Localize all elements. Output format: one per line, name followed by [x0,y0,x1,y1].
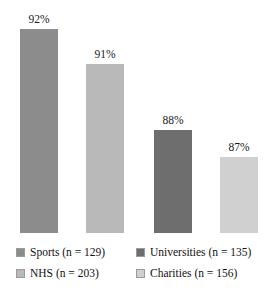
legend-swatch-icon-charities [136,269,145,278]
legend-label-charities: Charities (n = 156) [150,268,237,280]
legend-swatch-icon-sports [16,248,25,257]
bar-group-sports: 92% [20,29,58,233]
bar-value-label-sports: 92% [28,14,49,26]
legend-item-universities[interactable]: Universities (n = 135) [136,247,266,259]
bar-group-charities: 87% [220,157,258,233]
legend-label-nhs: NHS (n = 203) [30,268,99,280]
bar-value-label-charities: 87% [228,142,249,154]
bar-chart: 92% 91% 88% 87% Sports (n = 129) Univers… [0,0,276,293]
bar-sports[interactable] [20,29,58,233]
legend-item-sports[interactable]: Sports (n = 129) [16,247,136,259]
legend-item-charities[interactable]: Charities (n = 156) [136,268,266,280]
legend-swatch-icon-universities [136,248,145,257]
chart-legend: Sports (n = 129) Universities (n = 135) … [16,242,266,284]
plot-area: 92% 91% 88% 87% [0,0,276,233]
bar-group-universities: 88% [154,130,192,233]
bar-value-label-universities: 88% [162,115,183,127]
bar-group-nhs: 91% [86,64,124,233]
bar-charities[interactable] [220,157,258,233]
bar-nhs[interactable] [86,64,124,233]
legend-label-sports: Sports (n = 129) [30,247,105,259]
legend-swatch-icon-nhs [16,269,25,278]
legend-label-universities: Universities (n = 135) [150,247,251,259]
legend-item-nhs[interactable]: NHS (n = 203) [16,268,136,280]
bar-universities[interactable] [154,130,192,233]
bar-value-label-nhs: 91% [94,49,115,61]
